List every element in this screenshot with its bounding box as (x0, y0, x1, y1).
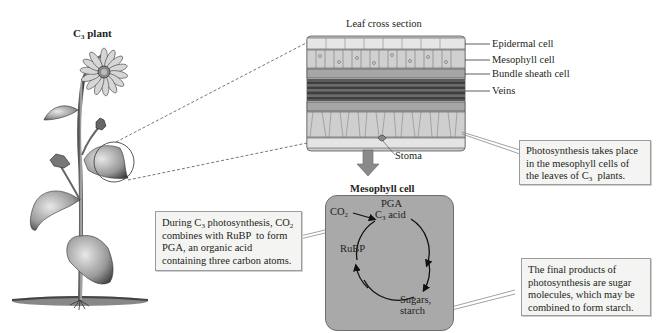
callout-text-line: combines with RuBP to form (162, 230, 295, 243)
callout-text-line: PGA, an organic acid (162, 242, 295, 255)
down-arrow-icon (357, 150, 379, 176)
callout-text-line: Photosynthesis takes place (526, 145, 644, 158)
sugars-starch-label: Sugars, starch (400, 294, 431, 316)
label-bundle-sheath-cell: Bundle sheath cell (492, 68, 570, 80)
sunflower-plant-illustration (12, 48, 148, 310)
label-stoma: Stoma (395, 150, 422, 162)
plant-title: C3 plant (73, 27, 112, 39)
mesophyll-cell-title: Mesophyll cell (350, 183, 414, 194)
callout-text-line: containing three carbon atoms. (162, 255, 295, 268)
leaf-section-title: Leaf cross section (346, 18, 422, 30)
callout-text-line: combined to form starch. (528, 302, 644, 315)
pga-label: PGA (381, 198, 402, 209)
callout-text-line: photosynthesis are sugar (528, 277, 644, 290)
callout-text-line: During C3 photosynthesis, CO2 (162, 217, 295, 230)
rubp-label: RuBP (340, 243, 365, 254)
callout-c3-process: During C3 photosynthesis, CO2 combines w… (155, 211, 302, 271)
callout-mesophyll-location: Photosynthesis takes place in the mesoph… (519, 140, 651, 185)
label-veins: Veins (492, 85, 515, 97)
leaf-cross-section-illustration (307, 36, 465, 151)
callout-text-line: The final products of (528, 264, 644, 277)
label-epidermal-cell: Epidermal cell (492, 38, 554, 50)
co2-label: CO2 (330, 206, 348, 217)
zoom-line-top (116, 42, 308, 142)
zoom-line-bottom (128, 143, 307, 180)
label-mesophyll-cell: Mesophyll cell (492, 54, 555, 66)
c3-acid-label: C3 acid (375, 209, 406, 220)
callout-final-products: The final products of photosynthesis are… (521, 258, 651, 316)
callout-text-line: the leaves of C3 plants. (526, 170, 644, 183)
callout-text-line: molecules, which may be (528, 289, 644, 302)
callout-text-line: in the mesophyll cells of (526, 158, 644, 171)
